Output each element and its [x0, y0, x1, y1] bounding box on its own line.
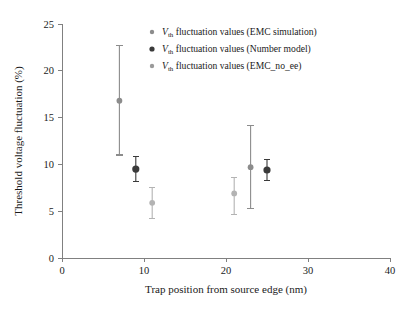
x-tick-label: 20 [221, 265, 232, 276]
data-point-marker [117, 98, 123, 104]
x-tick-label: 40 [385, 265, 396, 276]
y-tick-label: 25 [44, 19, 55, 30]
data-point-marker [132, 165, 139, 172]
scatter-plot-with-error-bars: 0510152025 010203040 Vth fluctuation val… [0, 0, 408, 310]
x-tick-label: 30 [303, 265, 314, 276]
chart-legend: Vth fluctuation values (EMC simulation)V… [149, 26, 316, 73]
y-tick-label: 10 [44, 159, 55, 170]
legend-marker-icon [150, 30, 154, 34]
legend-marker-icon [150, 64, 154, 68]
y-axis-title: Threshold voltage fluctuation (%) [12, 66, 25, 216]
y-tick-label: 0 [49, 253, 54, 264]
legend-marker-icon [149, 46, 154, 51]
data-point-marker [149, 200, 155, 206]
chart-figure: 0510152025 010203040 Vth fluctuation val… [0, 0, 408, 310]
x-axis-title: Trap position from source edge (nm) [145, 283, 307, 296]
x-tick-label: 0 [59, 265, 64, 276]
y-tick-label: 15 [44, 112, 55, 123]
x-tick-label: 10 [139, 265, 150, 276]
y-tick-label: 20 [44, 65, 55, 76]
data-point-marker [263, 166, 270, 173]
y-tick-label: 5 [49, 206, 54, 217]
data-point-marker [231, 191, 237, 197]
data-point-marker [248, 164, 254, 170]
